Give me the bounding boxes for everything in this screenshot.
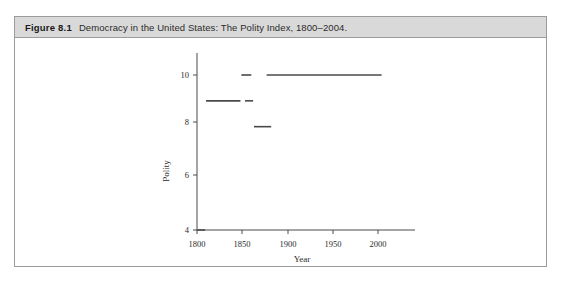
y-tick-label-6: 6: [171, 170, 189, 180]
x-tick-label-1850: 1850: [234, 239, 251, 249]
figure-caption-bar: Figure 8.1 Democracy in the United State…: [15, 17, 546, 38]
axis-lines: [197, 53, 415, 230]
x-tick-label-2000: 2000: [370, 239, 387, 249]
chart-canvas: [15, 38, 546, 267]
x-tick-label-1950: 1950: [325, 239, 342, 249]
polity-index-series: [197, 75, 382, 230]
x-tick-label-1800: 1800: [189, 239, 206, 249]
y-axis-ticks: [193, 75, 197, 230]
y-tick-label-10: 10: [171, 70, 189, 80]
x-axis-title: Year: [294, 254, 311, 264]
plot-area: 1800 1850 1900 1950 2000 10 8 6 4 Year P…: [15, 38, 546, 267]
figure-number-label: Figure 8.1: [25, 22, 72, 33]
x-tick-label-1900: 1900: [280, 239, 297, 249]
y-tick-label-8: 8: [171, 117, 189, 127]
y-tick-label-4: 4: [171, 225, 189, 235]
figure-caption-text: Democracy in the United States: The Poli…: [79, 22, 347, 33]
figure-container: Figure 8.1 Democracy in the United State…: [14, 16, 547, 267]
y-axis-title: Polity: [161, 160, 171, 182]
x-axis-ticks: [197, 230, 378, 234]
